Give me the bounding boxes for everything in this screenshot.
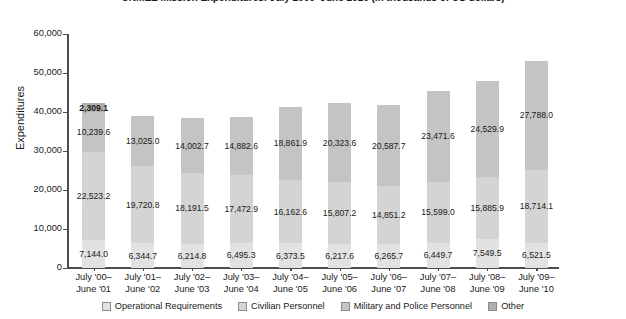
x-axis-tick-mark bbox=[389, 268, 390, 271]
legend-item[interactable]: Military and Police Personnel bbox=[341, 301, 472, 311]
legend-item[interactable]: Operational Requirements bbox=[102, 301, 222, 311]
x-axis-tick-mark bbox=[536, 268, 537, 271]
bar-segment[interactable]: 27,788.0 bbox=[525, 61, 548, 169]
bar-segment[interactable]: 15,885.9 bbox=[476, 177, 499, 239]
plot-area: 7,144.022,523.210,239.62,309.16,344.719,… bbox=[69, 34, 561, 268]
x-axis-tick-mark bbox=[438, 268, 439, 271]
bar-group[interactable]: 7,144.022,523.210,239.62,309.1 bbox=[82, 34, 105, 268]
y-axis-tick-label: 0 bbox=[18, 263, 62, 272]
bar-segment[interactable]: 20,587.7 bbox=[377, 105, 400, 185]
legend-label: Military and Police Personnel bbox=[354, 301, 472, 311]
bar-segment[interactable]: 18,191.5 bbox=[181, 173, 204, 244]
x-axis-tick-mark bbox=[241, 268, 242, 271]
legend-color-swatch bbox=[238, 302, 247, 311]
bar-segment[interactable]: 7,144.0 bbox=[82, 240, 105, 268]
legend-label: Other bbox=[501, 301, 524, 311]
bar-segment[interactable]: 20,323.6 bbox=[328, 103, 351, 182]
bar-segment[interactable]: 22,523.2 bbox=[82, 152, 105, 240]
x-axis-tick-mark bbox=[487, 268, 488, 271]
x-axis-tick-mark bbox=[143, 268, 144, 271]
bar-stack: 6,265.714,851.220,587.7 bbox=[377, 105, 400, 268]
x-axis-tick-label: July '09–June '10 bbox=[506, 272, 566, 295]
bar-segment[interactable]: 15,599.0 bbox=[427, 182, 450, 243]
bar-segment[interactable]: 6,265.7 bbox=[377, 244, 400, 268]
bar-segment[interactable]: 6,344.7 bbox=[131, 243, 154, 268]
bar-group[interactable]: 6,217.615,807.220,323.6 bbox=[328, 34, 351, 268]
bar-stack: 6,217.615,807.220,323.6 bbox=[328, 103, 351, 268]
bar-segment[interactable]: 13,025.0 bbox=[131, 116, 154, 167]
bar-stack: 6,449.715,599.023,471.6 bbox=[427, 91, 450, 269]
bar-segment[interactable]: 6,214.8 bbox=[181, 244, 204, 268]
bar-segment-value-label: 14,851.2 bbox=[372, 210, 405, 219]
bar-segment-value-label: 14,002.7 bbox=[175, 141, 208, 150]
bar-group[interactable]: 6,344.719,720.813,025.0 bbox=[131, 34, 154, 268]
y-axis-tick-label: 20,000 bbox=[18, 185, 62, 194]
bar-segment[interactable]: 17,472.9 bbox=[230, 175, 253, 243]
bar-segment[interactable]: 18,714.1 bbox=[525, 170, 548, 243]
bar-segment[interactable]: 6,217.6 bbox=[328, 244, 351, 268]
bar-segment[interactable]: 7,549.5 bbox=[476, 239, 499, 268]
bar-segment-value-label: 15,599.0 bbox=[421, 208, 454, 217]
chart-title: UNMEE Mission Expenditures: July 2000–Ju… bbox=[0, 0, 626, 3]
bar-group[interactable]: 6,373.516,162.618,861.9 bbox=[279, 34, 302, 268]
legend-item[interactable]: Other bbox=[488, 301, 524, 311]
bar-group[interactable]: 6,449.715,599.023,471.6 bbox=[427, 34, 450, 268]
x-axis-tick-label-line: July '09– bbox=[506, 272, 566, 284]
bar-segment[interactable]: 24,529.9 bbox=[476, 81, 499, 177]
legend-item[interactable]: Civilian Personnel bbox=[238, 301, 325, 311]
bar-group[interactable]: 6,265.714,851.220,587.7 bbox=[377, 34, 400, 268]
bar-stack: 6,495.317,472.914,882.6 bbox=[230, 117, 253, 269]
bar-segment-value-label: 23,471.6 bbox=[421, 132, 454, 141]
legend-label: Operational Requirements bbox=[115, 301, 222, 311]
y-axis-tick-label: 30,000 bbox=[18, 146, 62, 155]
bar-segment-value-label: 2,309.1 bbox=[79, 104, 108, 113]
bar-segment[interactable]: 6,521.5 bbox=[525, 243, 548, 268]
bar-segment[interactable]: 10,239.6 bbox=[82, 112, 105, 152]
bar-group[interactable]: 6,214.818,191.514,002.7 bbox=[181, 34, 204, 268]
bar-segment[interactable]: 19,720.8 bbox=[131, 166, 154, 243]
bar-segment-value-label: 6,521.5 bbox=[522, 251, 551, 260]
bar-stack: 6,373.516,162.618,861.9 bbox=[279, 107, 302, 268]
bar-segment[interactable]: 2,309.1 bbox=[82, 103, 105, 112]
bar-segment-value-label: 15,807.2 bbox=[323, 209, 356, 218]
bar-segment[interactable]: 14,851.2 bbox=[377, 186, 400, 244]
bar-segment-value-label: 6,373.5 bbox=[276, 251, 305, 260]
bar-segment[interactable]: 14,882.6 bbox=[230, 117, 253, 175]
y-axis-tick-label: 50,000 bbox=[18, 68, 62, 77]
bar-segment-value-label: 7,549.5 bbox=[473, 249, 502, 258]
bar-segment-value-label: 24,529.9 bbox=[470, 124, 503, 133]
bar-segment-value-label: 27,788.0 bbox=[520, 111, 553, 120]
bar-segment-value-label: 18,191.5 bbox=[175, 204, 208, 213]
bar-segment-value-label: 14,882.6 bbox=[224, 141, 257, 150]
bar-segment[interactable]: 23,471.6 bbox=[427, 91, 450, 183]
x-axis-tick-mark bbox=[340, 268, 341, 271]
bar-segment[interactable]: 16,162.6 bbox=[279, 180, 302, 243]
bar-segment-value-label: 16,162.6 bbox=[274, 207, 307, 216]
bar-segment-value-label: 20,323.6 bbox=[323, 138, 356, 147]
bar-segment[interactable]: 6,495.3 bbox=[230, 243, 253, 268]
bar-group[interactable]: 6,521.518,714.127,788.0 bbox=[525, 34, 548, 268]
bar-segment[interactable]: 14,002.7 bbox=[181, 118, 204, 173]
bar-segment-value-label: 17,472.9 bbox=[224, 204, 257, 213]
bar-stack: 7,549.515,885.924,529.9 bbox=[476, 81, 499, 268]
bar-segment-value-label: 18,861.9 bbox=[274, 139, 307, 148]
y-axis-tick-label: 60,000 bbox=[18, 29, 62, 38]
bar-segment[interactable]: 18,861.9 bbox=[279, 107, 302, 181]
bar-segment[interactable]: 6,373.5 bbox=[279, 243, 302, 268]
bar-segment[interactable]: 15,807.2 bbox=[328, 182, 351, 244]
x-axis-tick-mark bbox=[290, 268, 291, 271]
bar-segment-value-label: 22,523.2 bbox=[77, 192, 110, 201]
bar-segment[interactable]: 6,449.7 bbox=[427, 243, 450, 268]
bar-segment-value-label: 7,144.0 bbox=[79, 250, 108, 259]
bar-segment-value-label: 10,239.6 bbox=[77, 128, 110, 137]
bar-group[interactable]: 6,495.317,472.914,882.6 bbox=[230, 34, 253, 268]
legend-color-swatch bbox=[102, 302, 111, 311]
bar-group[interactable]: 7,549.515,885.924,529.9 bbox=[476, 34, 499, 268]
legend-color-swatch bbox=[488, 302, 497, 311]
chart-legend: Operational RequirementsCivilian Personn… bbox=[0, 301, 626, 311]
legend-label: Civilian Personnel bbox=[251, 301, 325, 311]
y-axis-tick-label: 10,000 bbox=[18, 224, 62, 233]
bar-segment-value-label: 20,587.7 bbox=[372, 141, 405, 150]
bar-segment-value-label: 6,265.7 bbox=[374, 251, 403, 260]
y-axis-tick-labels: 60,00050,00040,00030,00020,00010,0000 bbox=[18, 0, 62, 319]
